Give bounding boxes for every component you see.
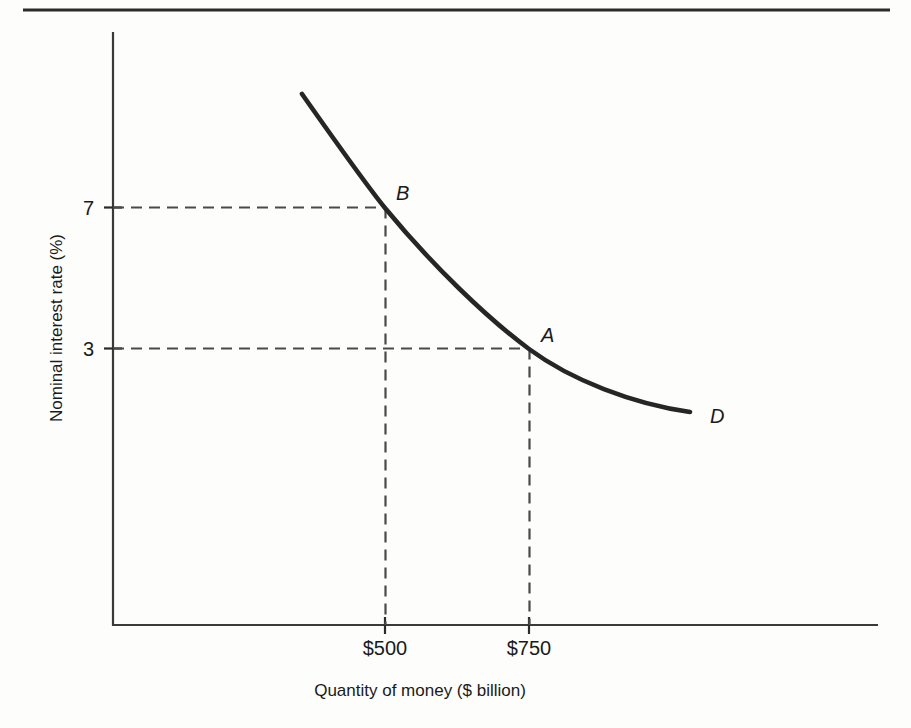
curve-label-d: D: [710, 405, 724, 427]
x-tick-label-500: $500: [363, 637, 408, 659]
y-tick-label-7: 7: [83, 197, 94, 219]
x-tick-label-750: $750: [507, 637, 552, 659]
x-axis-title: Quantity of money ($ billion): [314, 681, 526, 700]
y-tick-label-3: 3: [83, 338, 94, 360]
point-label-a: A: [540, 324, 554, 346]
money-demand-chart: Nominal interest rate (%) Quantity of mo…: [0, 0, 911, 728]
point-label-b: B: [396, 182, 409, 204]
demand-curve: [302, 94, 690, 412]
figure-root: Nominal interest rate (%) Quantity of mo…: [0, 0, 911, 728]
y-axis-title: Nominal interest rate (%): [47, 234, 66, 422]
